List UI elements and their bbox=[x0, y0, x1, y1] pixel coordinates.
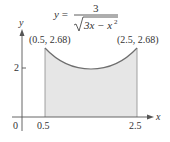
x-tick-label-0-5: 0.5 bbox=[37, 120, 50, 131]
point-label-right: (2.5, 2.68) bbox=[117, 34, 159, 46]
y-tick-label: 2 bbox=[14, 62, 19, 73]
y-axis-label: y bbox=[18, 17, 24, 28]
y-axis-arrow-icon bbox=[20, 29, 25, 36]
shaded-area bbox=[45, 48, 137, 117]
equation-radicand: 3x − x bbox=[83, 19, 112, 31]
origin-label: 0 bbox=[13, 120, 18, 131]
x-tick-label-2-5: 2.5 bbox=[129, 120, 142, 131]
chart-canvas: y x 2 0 0.5 2.5 (0.5, 2.68) (2.5, 2.68) … bbox=[0, 0, 170, 142]
equation-exponent: 2 bbox=[114, 18, 118, 26]
point-label-left: (0.5, 2.68) bbox=[29, 34, 71, 46]
x-axis-label: x bbox=[155, 111, 161, 122]
equation-lhs: y = bbox=[53, 8, 68, 20]
equation: y = 3 3x − x 2 bbox=[53, 2, 118, 31]
x-axis-arrow-icon bbox=[147, 115, 154, 120]
equation-numerator: 3 bbox=[93, 2, 99, 14]
